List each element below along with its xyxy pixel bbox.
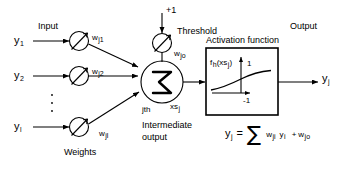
equation-term3-symbol: w (296, 130, 304, 139)
threshold-weight-symbol: w (174, 49, 180, 58)
weight-subscript-3: jl (105, 132, 109, 139)
input-label-3: yl (14, 121, 22, 133)
weight-symbol-1: w (92, 33, 98, 42)
bias-input-label: +1 (166, 6, 176, 15)
sigma-glyph (153, 72, 171, 93)
neuron-index-label: jth (142, 106, 150, 114)
weight-symbol-3: w (99, 129, 105, 138)
equation-term1-symbol: w (261, 130, 272, 139)
activation-axis-top-value: 1 (247, 60, 251, 68)
input-ellipsis-dots (51, 94, 53, 112)
equation-term2-symbol: y (276, 130, 284, 139)
activation-function-label: fh(xsj) (210, 52, 232, 68)
weights-heading: Weights (64, 148, 96, 157)
weighted-line-3 (89, 92, 140, 124)
activation-argument-close: ) (229, 58, 232, 67)
equation-term3-subscript: jo (304, 133, 310, 140)
input-heading: Input (38, 22, 58, 31)
intermediate-subscript: j (178, 105, 180, 112)
weight-label-3: wjl (99, 123, 108, 139)
weight-label-1: wj1 (92, 27, 104, 43)
summation-node-circle (141, 61, 183, 103)
output-subscript: j (328, 78, 330, 85)
activation-argument-open: (xs (217, 58, 228, 67)
equation-plus: + (286, 130, 297, 139)
input-symbol-3: y (14, 120, 20, 132)
threshold-weight-subscript: jo (180, 52, 186, 59)
intermediate-output-line2: output (142, 133, 167, 142)
weight-pot-1-slider (72, 33, 88, 50)
input-subscript-1: 1 (20, 40, 24, 47)
output-symbol: y (322, 72, 328, 84)
threshold-weight-label: wjo (174, 43, 186, 59)
output-equation: yj=∑wjiyi+wjo (225, 124, 310, 145)
input-label-1: y1 (14, 35, 24, 47)
activation-axis-bottom-value: -1 (243, 97, 250, 105)
threshold-pot-slider (155, 35, 171, 52)
output-label: yj (322, 73, 330, 85)
weight-pot-3-slider (72, 119, 88, 136)
output-heading: Output (290, 22, 317, 31)
intermediate-symbol: xs (170, 102, 178, 111)
weight-symbol-2: w (92, 67, 98, 76)
equation-equals: = (233, 127, 247, 139)
weight-pot-2-slider (72, 68, 88, 85)
equation-sum-glyph: ∑ (247, 122, 261, 146)
weight-subscript-2: j2 (98, 70, 104, 77)
intermediate-output-line1: Intermediate (142, 121, 192, 130)
input-symbol-2: y (14, 69, 20, 81)
neuron-diagram-canvas: Input y1 y2 yl wj1 wj2 wjl Weights +1 Th… (0, 0, 359, 171)
input-symbol-1: y (14, 34, 20, 46)
activation-heading: Activation function (206, 36, 279, 45)
input-label-2: y2 (14, 70, 24, 82)
input-subscript-2: 2 (20, 75, 24, 82)
intermediate-symbol-label: xsj (170, 103, 180, 112)
input-subscript-3: l (20, 126, 22, 133)
equation-lhs-symbol: y (225, 127, 231, 139)
weight-label-2: wj2 (92, 61, 104, 77)
weight-subscript-1: j1 (98, 36, 104, 43)
